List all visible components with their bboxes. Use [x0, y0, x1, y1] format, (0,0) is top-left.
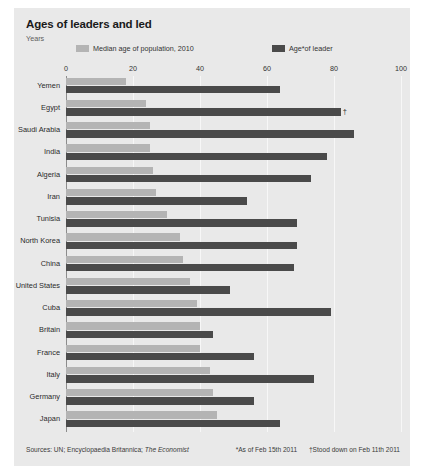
legend-item-median: Median age of population, 2010: [76, 44, 194, 53]
bar-leader-egypt: [66, 108, 341, 115]
bar-row: Britain: [66, 321, 401, 343]
bar-median-britain: [66, 322, 200, 329]
legend-swatch-leader: [272, 45, 285, 52]
category-label-japan: Japan: [40, 414, 60, 423]
bar-median-north-korea: [66, 233, 180, 240]
bar-row: China: [66, 254, 401, 276]
bar-median-algeria: [66, 167, 153, 174]
bar-leader-britain: [66, 331, 213, 338]
bar-median-yemen: [66, 78, 126, 85]
bar-median-china: [66, 256, 183, 263]
category-label-france: France: [37, 348, 60, 357]
bar-median-germany: [66, 389, 213, 396]
bar-row: India: [66, 143, 401, 165]
bar-leader-germany: [66, 397, 254, 404]
bar-leader-tunisia: [66, 219, 297, 226]
bar-row: France: [66, 343, 401, 365]
bar-median-japan: [66, 411, 217, 418]
bar-leader-china: [66, 264, 294, 271]
sources-text: Sources: UN; Encyclopaedia Britannica; T…: [26, 446, 189, 453]
chart-panel: Ages of leaders and led Years Median age…: [14, 8, 410, 466]
x-axis-tick-80: 80: [330, 64, 338, 73]
chart-footer: Sources: UN; Encyclopaedia Britannica; T…: [26, 446, 400, 458]
bar-row: Cuba: [66, 299, 401, 321]
bar-row: Egypt†: [66, 98, 401, 120]
bar-rows: YemenEgypt†Saudi ArabiaIndiaAlgeriaIranT…: [66, 76, 401, 432]
x-axis-tick-labels: 020406080100: [66, 64, 401, 76]
x-axis-tick-40: 40: [196, 64, 204, 73]
bar-row: Yemen: [66, 76, 401, 98]
legend-item-leader: Age*of leader: [272, 44, 333, 53]
category-label-north-korea: North Korea: [20, 236, 60, 245]
bar-median-saudi-arabia: [66, 122, 150, 129]
category-label-india: India: [44, 147, 60, 156]
bar-leader-japan: [66, 420, 280, 427]
bar-median-united-states: [66, 278, 190, 285]
category-label-britain: Britain: [39, 325, 60, 334]
bar-median-india: [66, 144, 150, 151]
bar-leader-cuba: [66, 308, 331, 315]
annotation-dagger-egypt: †: [343, 107, 347, 116]
bar-row: North Korea: [66, 232, 401, 254]
category-label-saudi-arabia: Saudi Arabia: [18, 125, 60, 134]
bar-leader-united-states: [66, 286, 230, 293]
sources-prefix: Sources: UN; Encyclopaedia Britannica;: [26, 446, 143, 453]
bar-median-cuba: [66, 300, 197, 307]
chart-figure: Ages of leaders and led Years Median age…: [0, 0, 424, 475]
bar-row: United States: [66, 276, 401, 298]
category-label-cuba: Cuba: [42, 303, 60, 312]
bar-row: Tunisia: [66, 210, 401, 232]
bar-leader-iran: [66, 197, 247, 204]
bar-leader-north-korea: [66, 242, 297, 249]
category-label-egypt: Egypt: [41, 103, 60, 112]
x-axis-tick-20: 20: [129, 64, 137, 73]
x-axis-tick-60: 60: [263, 64, 271, 73]
bar-median-france: [66, 345, 200, 352]
legend-swatch-median: [76, 45, 89, 52]
axis-unit-label: Years: [26, 34, 44, 43]
bar-median-egypt: [66, 100, 146, 107]
category-label-iran: Iran: [47, 192, 60, 201]
category-label-algeria: Algeria: [37, 170, 60, 179]
bar-leader-saudi-arabia: [66, 130, 354, 137]
bar-median-italy: [66, 367, 210, 374]
chart-legend: Median age of population, 2010 Age*of le…: [76, 44, 406, 56]
legend-label-median: Median age of population, 2010: [93, 44, 194, 53]
bar-leader-yemen: [66, 86, 280, 93]
sources-publication: The Economist: [145, 446, 189, 453]
category-label-tunisia: Tunisia: [36, 214, 60, 223]
bar-row: Germany: [66, 388, 401, 410]
bar-median-iran: [66, 189, 156, 196]
bar-row: Japan: [66, 410, 401, 432]
footnote-asterisk: *As of Feb 15th 2011: [236, 446, 297, 453]
category-label-yemen: Yemen: [37, 81, 60, 90]
plot-area: 020406080100 YemenEgypt†Saudi ArabiaIndi…: [66, 64, 401, 432]
bar-row: Iran: [66, 187, 401, 209]
category-label-china: China: [41, 259, 60, 268]
bar-leader-france: [66, 353, 254, 360]
bar-leader-india: [66, 153, 327, 160]
category-label-united-states: United States: [16, 281, 60, 290]
bar-row: Italy: [66, 365, 401, 387]
bar-leader-algeria: [66, 175, 311, 182]
bar-row: Saudi Arabia: [66, 121, 401, 143]
bar-row: Algeria: [66, 165, 401, 187]
gridline-100: [401, 76, 402, 432]
category-label-italy: Italy: [46, 370, 60, 379]
footnotes: *As of Feb 15th 2011 †Stood down on Feb …: [236, 446, 400, 453]
legend-label-leader: Age*of leader: [289, 44, 333, 53]
bar-leader-italy: [66, 375, 314, 382]
x-axis-tick-100: 100: [395, 64, 407, 73]
x-axis-tick-0: 0: [64, 64, 68, 73]
footnote-dagger: †Stood down on Feb 11th 2011: [309, 446, 400, 453]
bar-median-tunisia: [66, 211, 167, 218]
category-label-germany: Germany: [30, 392, 60, 401]
chart-title: Ages of leaders and led: [26, 18, 152, 30]
